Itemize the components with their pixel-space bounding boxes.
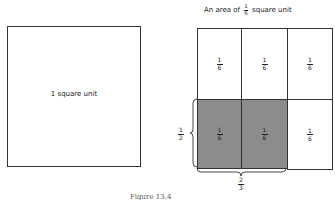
grid-title: An area of 16 square unit <box>204 4 292 16</box>
title-suffix: square unit <box>252 6 292 14</box>
title-fraction: 16 <box>244 4 248 16</box>
sixths-grid: 16 16 16 16 16 16 <box>197 28 333 170</box>
grid-cell: 16 <box>241 28 288 100</box>
title-prefix: An area of <box>204 6 240 14</box>
figure-caption: Figure 13.4 <box>130 193 171 200</box>
unit-square-label: 1 square unit <box>8 90 140 98</box>
bottom-brace-label: 23 <box>238 177 244 191</box>
grid-cell: 16 <box>287 28 333 100</box>
grid-cell: 16 <box>197 28 242 100</box>
grid-cell-shaded: 16 <box>197 99 242 169</box>
side-brace-icon <box>188 98 198 168</box>
grid-cell: 16 <box>287 99 333 170</box>
grid-cell-shaded: 16 <box>241 99 288 169</box>
side-brace-label: 12 <box>178 127 184 141</box>
unit-square: 1 square unit <box>7 26 141 167</box>
